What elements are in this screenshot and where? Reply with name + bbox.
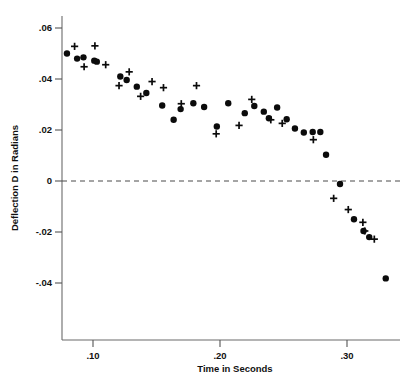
data-point-plus [115, 82, 122, 89]
data-point-plus [160, 84, 167, 91]
x-tick-label: .30 [340, 350, 353, 361]
x-axis-title: Time in Seconds [197, 363, 272, 374]
data-point-plus [359, 219, 366, 226]
plot-canvas: .06.04.020-.02-.04 .10.20.30 Time in Sec… [0, 0, 405, 389]
data-point-dot [251, 103, 257, 109]
data-point-dot [351, 216, 357, 222]
data-point-plus [71, 43, 78, 50]
data-point-dot [383, 275, 389, 281]
data-point-dot [337, 181, 343, 187]
data-markers-dots [64, 50, 389, 281]
data-point-dot [134, 83, 140, 89]
data-point-dot [80, 54, 86, 60]
x-axis-ticks: .10.20.30 [86, 340, 353, 361]
y-axis-ticks: .06.04.020-.02-.04 [36, 22, 62, 288]
data-point-dot [214, 123, 220, 129]
data-point-dot [261, 108, 267, 114]
data-point-dot [123, 77, 129, 83]
y-tick-label: .06 [39, 22, 52, 33]
data-point-plus [102, 61, 109, 68]
y-tick-label: 0 [47, 175, 52, 186]
data-point-dot [292, 125, 298, 131]
y-tick-label: -.02 [36, 226, 52, 237]
data-point-dot [225, 100, 231, 106]
data-point-dot [143, 90, 149, 96]
data-point-dot [274, 104, 280, 110]
data-point-dot [94, 58, 100, 64]
data-point-dot [317, 129, 323, 135]
data-point-plus [137, 93, 144, 100]
data-point-plus [81, 63, 88, 70]
data-point-plus [148, 78, 155, 85]
data-point-plus [345, 206, 352, 213]
data-markers-plus [71, 42, 378, 242]
data-point-plus [126, 68, 133, 75]
data-point-plus [248, 96, 255, 103]
data-point-dot [74, 55, 80, 61]
data-point-dot [310, 129, 316, 135]
data-point-plus [91, 42, 98, 49]
x-tick-label: .10 [86, 350, 99, 361]
x-tick-label: .20 [213, 350, 226, 361]
data-point-dot [170, 117, 176, 123]
data-point-dot [283, 116, 289, 122]
data-point-dot [301, 129, 307, 135]
y-axis-title: Deflection D in Radians [9, 125, 20, 231]
data-point-plus [310, 136, 317, 143]
data-point-plus [193, 82, 200, 89]
scatter-plot-figure: .06.04.020-.02-.04 .10.20.30 Time in Sec… [0, 0, 405, 389]
data-point-dot [64, 50, 70, 56]
data-point-dot [117, 73, 123, 79]
y-tick-label: .02 [39, 124, 52, 135]
y-tick-label: -.04 [36, 277, 53, 288]
data-point-dot [201, 104, 207, 110]
data-point-plus [178, 100, 185, 107]
data-point-dot [323, 152, 329, 158]
data-point-dot [190, 100, 196, 106]
axes-group [62, 16, 400, 340]
data-point-plus [235, 122, 242, 129]
y-tick-label: .04 [39, 73, 53, 84]
data-point-plus [330, 195, 337, 202]
data-point-dot [242, 110, 248, 116]
data-point-dot [159, 102, 165, 108]
data-point-plus [213, 130, 220, 137]
